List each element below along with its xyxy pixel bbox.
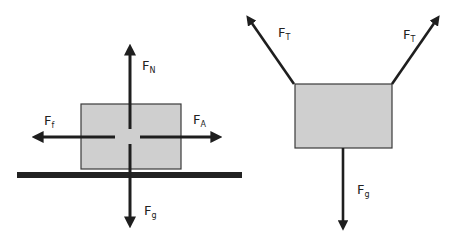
label-gravity-force-left: Fg bbox=[144, 203, 157, 220]
label-tension-right: FT bbox=[403, 27, 415, 44]
hanging-diagram: FT FT Fg bbox=[249, 19, 437, 226]
free-body-diagrams: FN Fg Ff FA FT FT Fg bbox=[0, 0, 457, 246]
surface-diagram: FN Fg Ff FA bbox=[17, 49, 242, 223]
tension-right-arrow bbox=[392, 19, 437, 84]
tension-left-arrow bbox=[249, 19, 294, 84]
label-normal-force: FN bbox=[142, 58, 155, 75]
label-friction-force: Ff bbox=[44, 113, 54, 130]
block-right bbox=[295, 84, 392, 148]
label-tension-left: FT bbox=[278, 25, 290, 42]
label-applied-force: FA bbox=[193, 112, 206, 129]
label-gravity-force-right: Fg bbox=[357, 182, 370, 199]
